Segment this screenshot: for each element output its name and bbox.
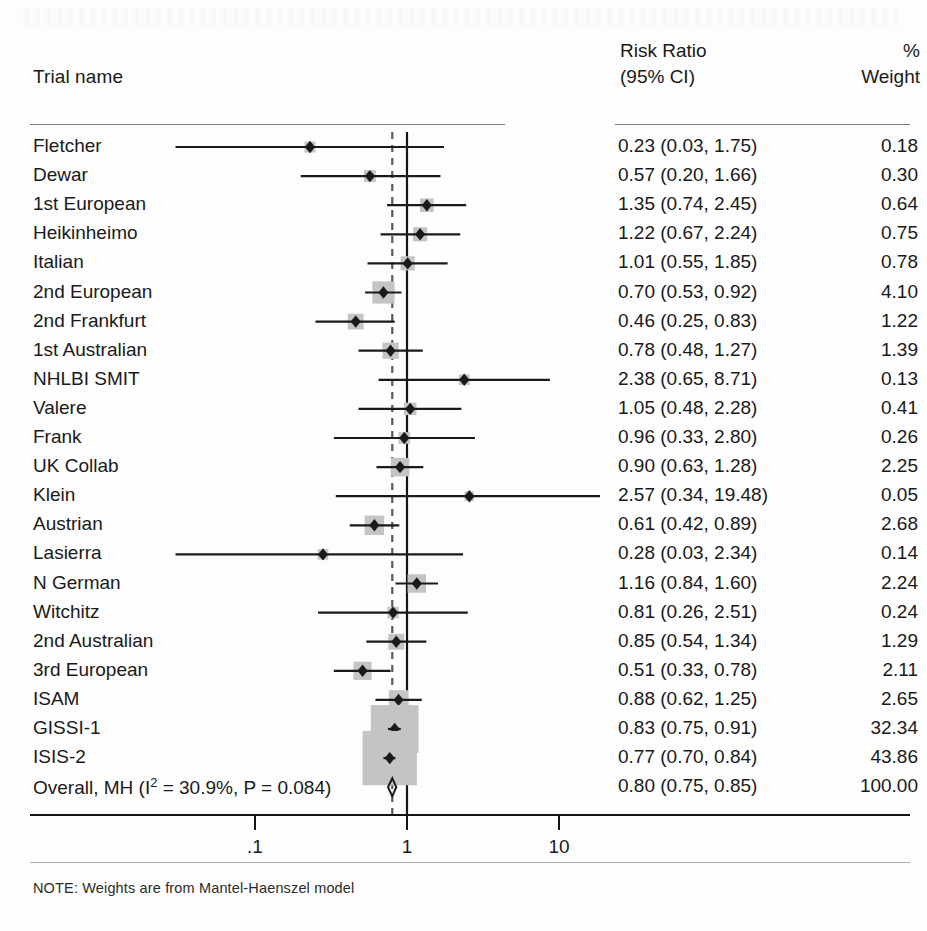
point-estimate-marker bbox=[388, 606, 398, 618]
weight-square bbox=[365, 516, 384, 535]
risk-ratio-value: 0.90 (0.63, 1.28) bbox=[618, 455, 757, 477]
risk-ratio-value: 0.88 (0.62, 1.25) bbox=[618, 688, 757, 710]
axis-tick-label: 1 bbox=[377, 836, 437, 858]
risk-ratio-value: 0.57 (0.20, 1.66) bbox=[618, 164, 757, 186]
trial-name-label: Austrian bbox=[33, 513, 103, 535]
risk-ratio-value: 1.35 (0.74, 2.45) bbox=[618, 193, 757, 215]
weight-value: 0.75 bbox=[790, 222, 918, 244]
trial-name-label: ISAM bbox=[33, 688, 79, 710]
weight-square bbox=[391, 458, 410, 477]
point-estimate-marker bbox=[385, 752, 395, 764]
risk-ratio-value: 0.23 (0.03, 1.75) bbox=[618, 135, 757, 157]
weight-value: 0.64 bbox=[790, 193, 918, 215]
trial-name-label: 1st European bbox=[33, 193, 146, 215]
point-estimate-marker bbox=[403, 257, 413, 269]
risk-ratio-value: 0.85 (0.54, 1.34) bbox=[618, 630, 757, 652]
column-header-weight: Weight bbox=[800, 66, 920, 88]
trial-name-label: Italian bbox=[33, 251, 84, 273]
weight-square bbox=[353, 662, 371, 680]
weight-value: 1.39 bbox=[790, 339, 918, 361]
overall-risk-ratio-value: 0.80 (0.75, 0.85) bbox=[618, 775, 757, 797]
point-estimate-marker bbox=[305, 141, 315, 153]
trial-name-label: Valere bbox=[33, 397, 87, 419]
weight-value: 0.24 bbox=[790, 601, 918, 623]
point-estimate-marker bbox=[357, 665, 367, 677]
weight-square bbox=[304, 142, 315, 153]
header-divider-left bbox=[30, 124, 505, 125]
weight-value: 0.18 bbox=[790, 135, 918, 157]
weight-value: 43.86 bbox=[790, 746, 918, 768]
weight-value: 2.11 bbox=[790, 659, 918, 681]
weight-square bbox=[389, 690, 408, 709]
point-estimate-marker bbox=[378, 286, 388, 298]
risk-ratio-value: 0.81 (0.26, 2.51) bbox=[618, 601, 757, 623]
weight-square bbox=[372, 281, 394, 303]
risk-ratio-value: 0.46 (0.25, 0.83) bbox=[618, 310, 757, 332]
column-header-percent: % bbox=[820, 40, 920, 62]
point-estimate-marker bbox=[390, 723, 400, 735]
risk-ratio-value: 0.51 (0.33, 0.78) bbox=[618, 659, 757, 681]
risk-ratio-value: 0.96 (0.33, 2.80) bbox=[618, 426, 757, 448]
point-estimate-marker bbox=[415, 228, 425, 240]
point-estimate-marker bbox=[393, 694, 403, 706]
weight-square bbox=[382, 343, 398, 359]
figure-note: NOTE: Weights are from Mantel-Haenszel m… bbox=[33, 880, 354, 896]
point-estimate-marker bbox=[422, 199, 432, 211]
risk-ratio-value: 0.77 (0.70, 0.84) bbox=[618, 746, 757, 768]
weight-square bbox=[413, 227, 427, 241]
trial-name-label: Dewar bbox=[33, 164, 88, 186]
risk-ratio-value: 0.83 (0.75, 0.91) bbox=[618, 717, 757, 739]
weight-value: 2.68 bbox=[790, 513, 918, 535]
axis-baseline bbox=[30, 814, 910, 816]
point-estimate-marker bbox=[386, 345, 396, 357]
point-estimate-marker bbox=[395, 461, 405, 473]
weight-square bbox=[401, 256, 415, 270]
header-divider-right bbox=[615, 124, 910, 125]
risk-ratio-value: 0.61 (0.42, 0.89) bbox=[618, 513, 757, 535]
point-estimate-marker bbox=[399, 432, 409, 444]
point-estimate-marker bbox=[412, 577, 422, 589]
weight-square bbox=[387, 607, 398, 618]
trial-name-label: ISIS-2 bbox=[33, 746, 86, 768]
weight-square bbox=[420, 198, 434, 212]
axis-tick-label: .1 bbox=[225, 836, 285, 858]
weight-value: 2.65 bbox=[790, 688, 918, 710]
risk-ratio-value: 1.16 (0.84, 1.60) bbox=[618, 572, 757, 594]
scan-artifact bbox=[22, 8, 902, 26]
point-estimate-marker bbox=[365, 170, 375, 182]
trial-name-label: Frank bbox=[33, 426, 82, 448]
trial-name-label: GISSI-1 bbox=[33, 717, 101, 739]
weight-value: 0.41 bbox=[790, 397, 918, 419]
trial-name-label: NHLBI SMIT bbox=[33, 368, 140, 390]
weight-square bbox=[363, 731, 417, 785]
risk-ratio-value: 0.78 (0.48, 1.27) bbox=[618, 339, 757, 361]
weight-value: 2.25 bbox=[790, 455, 918, 477]
trial-name-label: 2nd European bbox=[33, 281, 152, 303]
weight-value: 2.24 bbox=[790, 572, 918, 594]
weight-square bbox=[388, 634, 404, 650]
trial-name-label: 3rd European bbox=[33, 659, 148, 681]
weight-value: 1.22 bbox=[790, 310, 918, 332]
risk-ratio-value: 1.22 (0.67, 2.24) bbox=[618, 222, 757, 244]
trial-name-label: UK Collab bbox=[33, 455, 119, 477]
trial-name-label: 2nd Frankfurt bbox=[33, 310, 146, 332]
column-header-confidence-interval: (95% CI) bbox=[620, 66, 695, 88]
weight-value: 0.26 bbox=[790, 426, 918, 448]
forest-plot-figure: Trial name Risk Ratio (95% CI) % Weight … bbox=[0, 0, 927, 931]
weight-square bbox=[404, 403, 416, 415]
risk-ratio-value: 2.38 (0.65, 8.71) bbox=[618, 368, 757, 390]
risk-ratio-value: 0.28 (0.03, 2.34) bbox=[618, 542, 757, 564]
overall-summary-diamond bbox=[388, 778, 396, 796]
weight-value: 1.29 bbox=[790, 630, 918, 652]
note-divider bbox=[30, 862, 910, 863]
weight-square bbox=[348, 314, 364, 330]
point-estimate-marker bbox=[405, 403, 415, 415]
point-estimate-marker bbox=[464, 490, 474, 502]
point-estimate-marker bbox=[391, 636, 401, 648]
trial-name-label: 2nd Australian bbox=[33, 630, 153, 652]
trial-name-label: Klein bbox=[33, 484, 75, 506]
trial-name-label: Witchitz bbox=[33, 601, 100, 623]
weight-value: 0.05 bbox=[790, 484, 918, 506]
trial-name-label: 1st Australian bbox=[33, 339, 147, 361]
weight-value: 0.78 bbox=[790, 251, 918, 273]
